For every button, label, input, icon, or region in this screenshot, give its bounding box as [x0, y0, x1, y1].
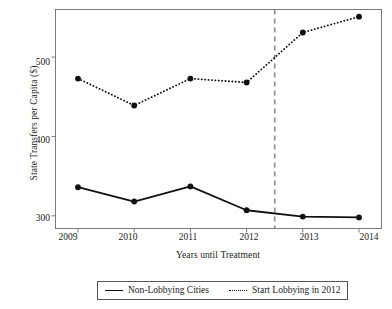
- data-point-marker: [75, 76, 81, 82]
- figure: State Transfers per Capita ($) 300 400 5…: [0, 0, 392, 309]
- data-point-marker: [187, 76, 193, 82]
- series-line-start-lobbying-in-2012: [78, 17, 359, 106]
- axes-frame: [56, 10, 382, 229]
- dotted-line-swatch-icon: [229, 290, 247, 291]
- data-point-marker: [300, 30, 306, 36]
- legend-entry-start-lobbying-in-2012: Start Lobbying in 2012: [229, 285, 340, 296]
- plot-area: [0, 0, 392, 309]
- solid-line-swatch-icon: [105, 290, 123, 291]
- data-point-marker: [356, 214, 362, 220]
- legend-entry-non-lobbying-cities: Non-Lobbying Cities: [105, 285, 209, 296]
- data-point-marker: [244, 207, 250, 213]
- chart-legend: Non-Lobbying Cities Start Lobbying in 20…: [97, 281, 348, 300]
- legend-label: Start Lobbying in 2012: [252, 285, 340, 296]
- legend-label: Non-Lobbying Cities: [128, 285, 209, 296]
- data-point-marker: [131, 103, 137, 109]
- data-point-marker: [244, 80, 250, 86]
- data-point-marker: [131, 199, 137, 205]
- data-point-marker: [300, 214, 306, 220]
- series-line-non-lobbying-cities: [78, 186, 359, 217]
- data-point-marker: [187, 184, 193, 190]
- data-point-marker: [75, 184, 81, 190]
- data-point-marker: [356, 14, 362, 20]
